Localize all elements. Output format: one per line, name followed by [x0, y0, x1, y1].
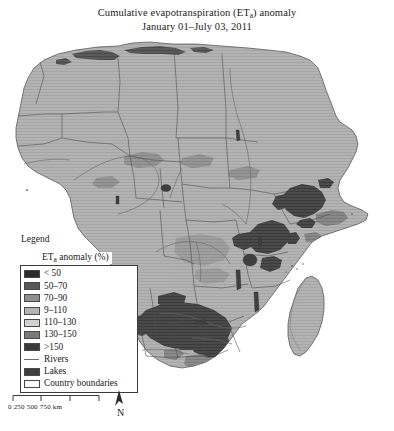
north-arrow-icon: N	[108, 388, 132, 418]
north-arrow-label: N	[117, 407, 124, 418]
figure-title-text-post: ) anomaly	[253, 7, 296, 18]
legend-label-lakes: Lakes	[44, 367, 66, 376]
legend-label-lt50: < 50	[44, 269, 61, 278]
legend-label-70-90: 70–90	[44, 294, 67, 303]
figure-title-line-1: Cumulative evapotranspiration (ETa) anom…	[0, 6, 394, 20]
legend-item-50-70: 50–70	[24, 280, 135, 292]
figure-title-text-pre: Cumulative evapotranspiration (ET	[98, 7, 250, 18]
legend-label-50-70: 50–70	[44, 282, 67, 291]
legend-label-rivers: Rivers	[44, 355, 68, 364]
legend-label-gt150: >150	[44, 343, 63, 352]
legend-subheading: ETa anomaly (%)	[20, 252, 112, 264]
legend-label-110-130: 110–130	[44, 318, 76, 327]
map-legend: Legend ETa anomaly (%) < 50 50–70 70–90 …	[20, 228, 138, 393]
legend-swatch-gt150	[24, 343, 40, 351]
legend-box: < 50 50–70 70–90 9–110 110–130 130–150 >…	[20, 265, 138, 393]
figure-title-line-2: January 01–July 03, 2011	[0, 20, 394, 33]
legend-item-rivers: Rivers	[24, 353, 135, 365]
legend-item-gt150: >150	[24, 341, 135, 353]
river-line-icon	[24, 355, 40, 363]
legend-item-lt50: < 50	[24, 268, 135, 280]
scale-bar-labels: 0 250 500 750 km	[8, 403, 124, 411]
legend-subheading-post: anomaly (%)	[57, 252, 109, 262]
legend-swatch-110-130	[24, 319, 40, 327]
legend-heading: Legend	[20, 234, 53, 245]
legend-swatch-9-110	[24, 307, 40, 315]
legend-swatch-70-90	[24, 294, 40, 302]
legend-label-9-110: 9–110	[44, 306, 67, 315]
legend-swatch-country-boundaries	[24, 380, 40, 388]
legend-label-country-boundaries: Country boundaries	[44, 379, 118, 388]
legend-item-9-110: 9–110	[24, 305, 135, 317]
legend-swatch-lakes	[24, 368, 40, 376]
scale-and-north-block: 0 250 500 750 km N	[8, 392, 138, 426]
legend-item-110-130: 110–130	[24, 317, 135, 329]
figure-title-block: Cumulative evapotranspiration (ETa) anom…	[0, 6, 394, 33]
legend-swatch-130-150	[24, 331, 40, 339]
legend-swatch-50-70	[24, 282, 40, 290]
legend-item-70-90: 70–90	[24, 292, 135, 304]
legend-item-130-150: 130–150	[24, 329, 135, 341]
legend-label-130-150: 130–150	[44, 330, 77, 339]
legend-swatch-lt50	[24, 270, 40, 278]
legend-subheading-pre: ET	[42, 252, 54, 262]
legend-item-lakes: Lakes	[24, 366, 135, 378]
